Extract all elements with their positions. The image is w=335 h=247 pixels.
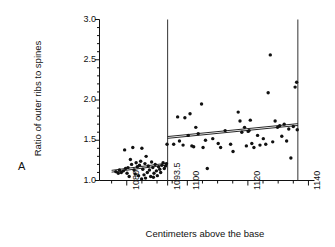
data-point [134, 161, 137, 164]
data-point [280, 135, 283, 138]
axes-group [95, 20, 315, 186]
data-point [144, 176, 147, 179]
data-point [258, 143, 261, 146]
data-point [178, 139, 181, 142]
data-point [139, 159, 142, 162]
data-point [156, 174, 159, 177]
data-point [181, 143, 184, 146]
data-point [249, 118, 252, 121]
data-point [295, 81, 298, 84]
data-point [229, 143, 232, 146]
data-points-group [114, 53, 299, 180]
data-point [150, 160, 153, 163]
data-point [192, 145, 195, 148]
data-point [269, 53, 272, 56]
data-point [172, 143, 175, 146]
data-point [138, 164, 141, 167]
data-point [219, 146, 222, 149]
data-point [154, 163, 157, 166]
data-point [151, 166, 154, 169]
data-point [147, 164, 150, 167]
data-point [204, 139, 207, 142]
data-point [262, 137, 265, 140]
data-point [271, 140, 274, 143]
data-point [123, 148, 126, 151]
data-point [132, 168, 135, 171]
data-point [134, 172, 137, 175]
data-point [201, 146, 204, 149]
data-point [140, 177, 143, 180]
data-point [176, 115, 179, 118]
data-point [131, 146, 134, 149]
data-point [245, 144, 248, 147]
data-point [125, 172, 128, 175]
data-point [158, 168, 161, 171]
data-point [200, 102, 203, 105]
data-point [148, 168, 151, 171]
data-point [155, 169, 158, 172]
data-point [117, 172, 120, 175]
data-point [273, 119, 276, 122]
data-point [296, 128, 299, 131]
data-point [256, 134, 259, 137]
data-point [161, 161, 164, 164]
data-point [223, 129, 226, 132]
data-point [231, 150, 234, 153]
data-point [266, 91, 269, 94]
scatter-plot-canvas [0, 0, 335, 247]
data-point [165, 143, 168, 146]
data-point [289, 156, 292, 159]
data-point [293, 85, 296, 88]
data-point [238, 119, 241, 122]
figure-panel-a: A Ratio of outer ribs to spines Centimet… [0, 0, 335, 247]
data-point [152, 176, 155, 179]
data-point [236, 110, 239, 113]
data-point [152, 172, 155, 175]
data-point [217, 142, 220, 145]
data-point [264, 143, 267, 146]
data-point [183, 116, 186, 119]
data-point [292, 125, 295, 128]
data-point [129, 158, 132, 161]
data-point [137, 174, 140, 177]
data-point [197, 132, 200, 135]
data-point [211, 137, 214, 140]
data-point [243, 126, 246, 129]
data-point [240, 131, 243, 134]
data-point [141, 168, 144, 171]
data-point [247, 129, 250, 132]
data-point [194, 126, 197, 129]
data-point [285, 139, 288, 142]
data-point [206, 167, 209, 170]
data-point [127, 175, 130, 178]
data-point [143, 162, 146, 165]
data-point [278, 124, 281, 127]
data-point [159, 171, 162, 174]
data-point [126, 166, 129, 169]
data-point [165, 162, 168, 165]
data-point [188, 112, 191, 115]
data-point [142, 173, 145, 176]
data-point [283, 122, 286, 125]
data-point [187, 134, 190, 137]
data-point [287, 127, 290, 130]
data-point [250, 142, 253, 145]
data-point [144, 155, 147, 158]
boundary-lines-group [168, 20, 298, 181]
data-point [140, 147, 143, 150]
data-point [252, 146, 255, 149]
data-point [130, 163, 133, 166]
